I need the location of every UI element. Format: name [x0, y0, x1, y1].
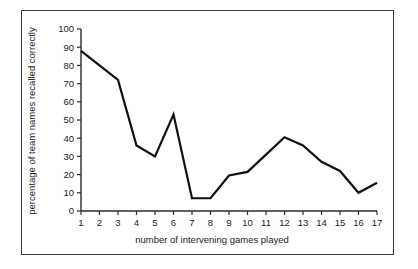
x-tick-label: 10: [242, 217, 253, 228]
x-tick-label: 4: [134, 217, 139, 228]
x-tick-label: 11: [261, 217, 271, 228]
x-tick-label: 12: [279, 217, 290, 228]
line-chart: 0102030405060708090100 12345678910111213…: [22, 11, 392, 253]
y-tick-label: 20: [63, 169, 74, 180]
x-tick-label: 16: [353, 217, 364, 228]
x-tick-label: 9: [226, 217, 231, 228]
x-tick-label: 13: [298, 217, 309, 228]
y-tick-label: 30: [63, 151, 74, 162]
x-axis-title: number of intervening games played: [135, 234, 289, 245]
data-series-line: [81, 51, 377, 198]
y-tick-label: 40: [63, 133, 74, 144]
y-tick-label: 60: [63, 96, 74, 107]
y-tick-label: 80: [63, 60, 74, 71]
x-tick-label: 17: [372, 217, 383, 228]
y-tick-label: 0: [69, 205, 74, 216]
x-axis-ticks: 1234567891011121314151617: [78, 211, 382, 228]
x-tick-label: 2: [97, 217, 102, 228]
y-axis-ticks: 0102030405060708090100: [58, 23, 81, 216]
y-tick-label: 100: [58, 23, 74, 34]
x-tick-label: 8: [208, 217, 213, 228]
x-tick-label: 15: [335, 217, 346, 228]
x-tick-label: 7: [189, 217, 194, 228]
x-tick-label: 6: [171, 217, 176, 228]
x-tick-label: 1: [78, 217, 83, 228]
figure-canvas: 0102030405060708090100 12345678910111213…: [0, 0, 418, 269]
y-tick-label: 10: [63, 187, 74, 198]
chart-frame: 0102030405060708090100 12345678910111213…: [21, 10, 394, 255]
y-axis-title: percentage of team names recalled correc…: [26, 27, 37, 215]
y-tick-label: 50: [63, 114, 74, 125]
y-tick-label: 70: [63, 78, 74, 89]
y-tick-label: 90: [63, 42, 74, 53]
x-tick-label: 3: [115, 217, 120, 228]
x-tick-label: 5: [152, 217, 157, 228]
x-tick-label: 14: [316, 217, 327, 228]
